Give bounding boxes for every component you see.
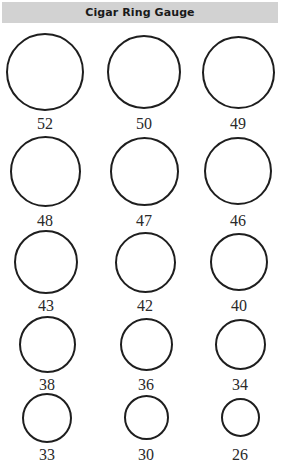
ring-gauge-circle-48 [10,136,81,207]
ring-gauge-label: 34 [210,377,270,393]
ring-gauge-circle-26 [221,398,260,437]
ring-gauge-label: 50 [114,116,174,132]
ring-gauge-circle-43 [14,230,78,294]
ring-gauge-label: 48 [15,213,75,229]
ring-gauge-circle-30 [124,395,169,440]
ring-gauge-circle-40 [210,233,268,291]
ring-gauge-circle-42 [115,232,176,293]
ring-gauge-label: 43 [16,298,76,314]
ring-gauge-circle-49 [202,36,275,109]
ring-gauge-label: 52 [15,116,75,132]
ring-gauge-circle-52 [6,33,84,111]
ring-gauge-circle-46 [204,137,272,205]
ring-gauge-label: 36 [116,377,176,393]
ring-gauge-label: 47 [114,213,174,229]
ring-gauge-circle-33 [22,393,72,443]
page-title: Cigar Ring Gauge [85,6,194,19]
ring-gauge-label: 30 [116,447,176,463]
ring-gauge-circle-34 [215,319,266,370]
ring-gauge-label: 33 [17,447,77,463]
ring-gauge-circle-36 [120,318,173,371]
ring-gauge-label: 40 [209,298,269,314]
ring-gauge-circle-47 [110,137,179,206]
ring-gauge-label: 46 [208,213,268,229]
ring-gauge-label: 38 [17,377,77,393]
ring-gauge-circle-50 [107,35,181,109]
ring-gauge-label: 49 [208,116,268,132]
ring-gauge-label: 26 [210,447,270,463]
title-bar: Cigar Ring Gauge [2,2,278,23]
ring-gauge-circle-38 [19,316,76,373]
ring-gauge-label: 42 [115,298,175,314]
